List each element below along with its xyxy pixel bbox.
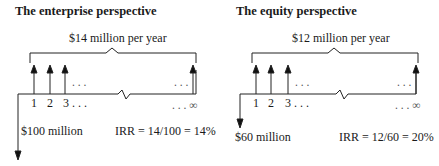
time-label-3: 3 . . . [285, 96, 309, 111]
timeline [18, 70, 196, 99]
up-arrow-icon [31, 65, 196, 94]
end-label-infinity: . . . ∞ [395, 99, 420, 111]
dots-upper-left: . . . [295, 76, 309, 88]
equity-perspective-panel: The equity perspective $12 million per y… [220, 0, 439, 166]
investment-label: $60 million [235, 130, 291, 145]
end-label-infinity: . . . ∞ [172, 99, 197, 111]
dots-upper-right: . . . [174, 76, 188, 88]
irr-label: IRR = 14/100 = 14% [115, 124, 216, 139]
up-arrow-icon [253, 65, 419, 94]
down-arrow-icon [237, 94, 243, 128]
time-label-3: 3 . . . [63, 96, 87, 111]
time-label-2: 2 [47, 96, 53, 111]
time-label-1: 1 [31, 96, 37, 111]
investment-label: $100 million [21, 124, 83, 139]
dots-upper-right: . . . [397, 76, 411, 88]
bracket [30, 48, 196, 63]
enterprise-perspective-panel: The enterprise perspective $14 million p… [0, 0, 220, 166]
timeline [240, 70, 416, 99]
bracket [252, 48, 418, 63]
time-label-1: 1 [253, 96, 259, 111]
irr-label: IRR = 12/60 = 20% [339, 130, 434, 145]
dots-upper-left: . . . [72, 76, 86, 88]
time-label-2: 2 [268, 96, 274, 111]
